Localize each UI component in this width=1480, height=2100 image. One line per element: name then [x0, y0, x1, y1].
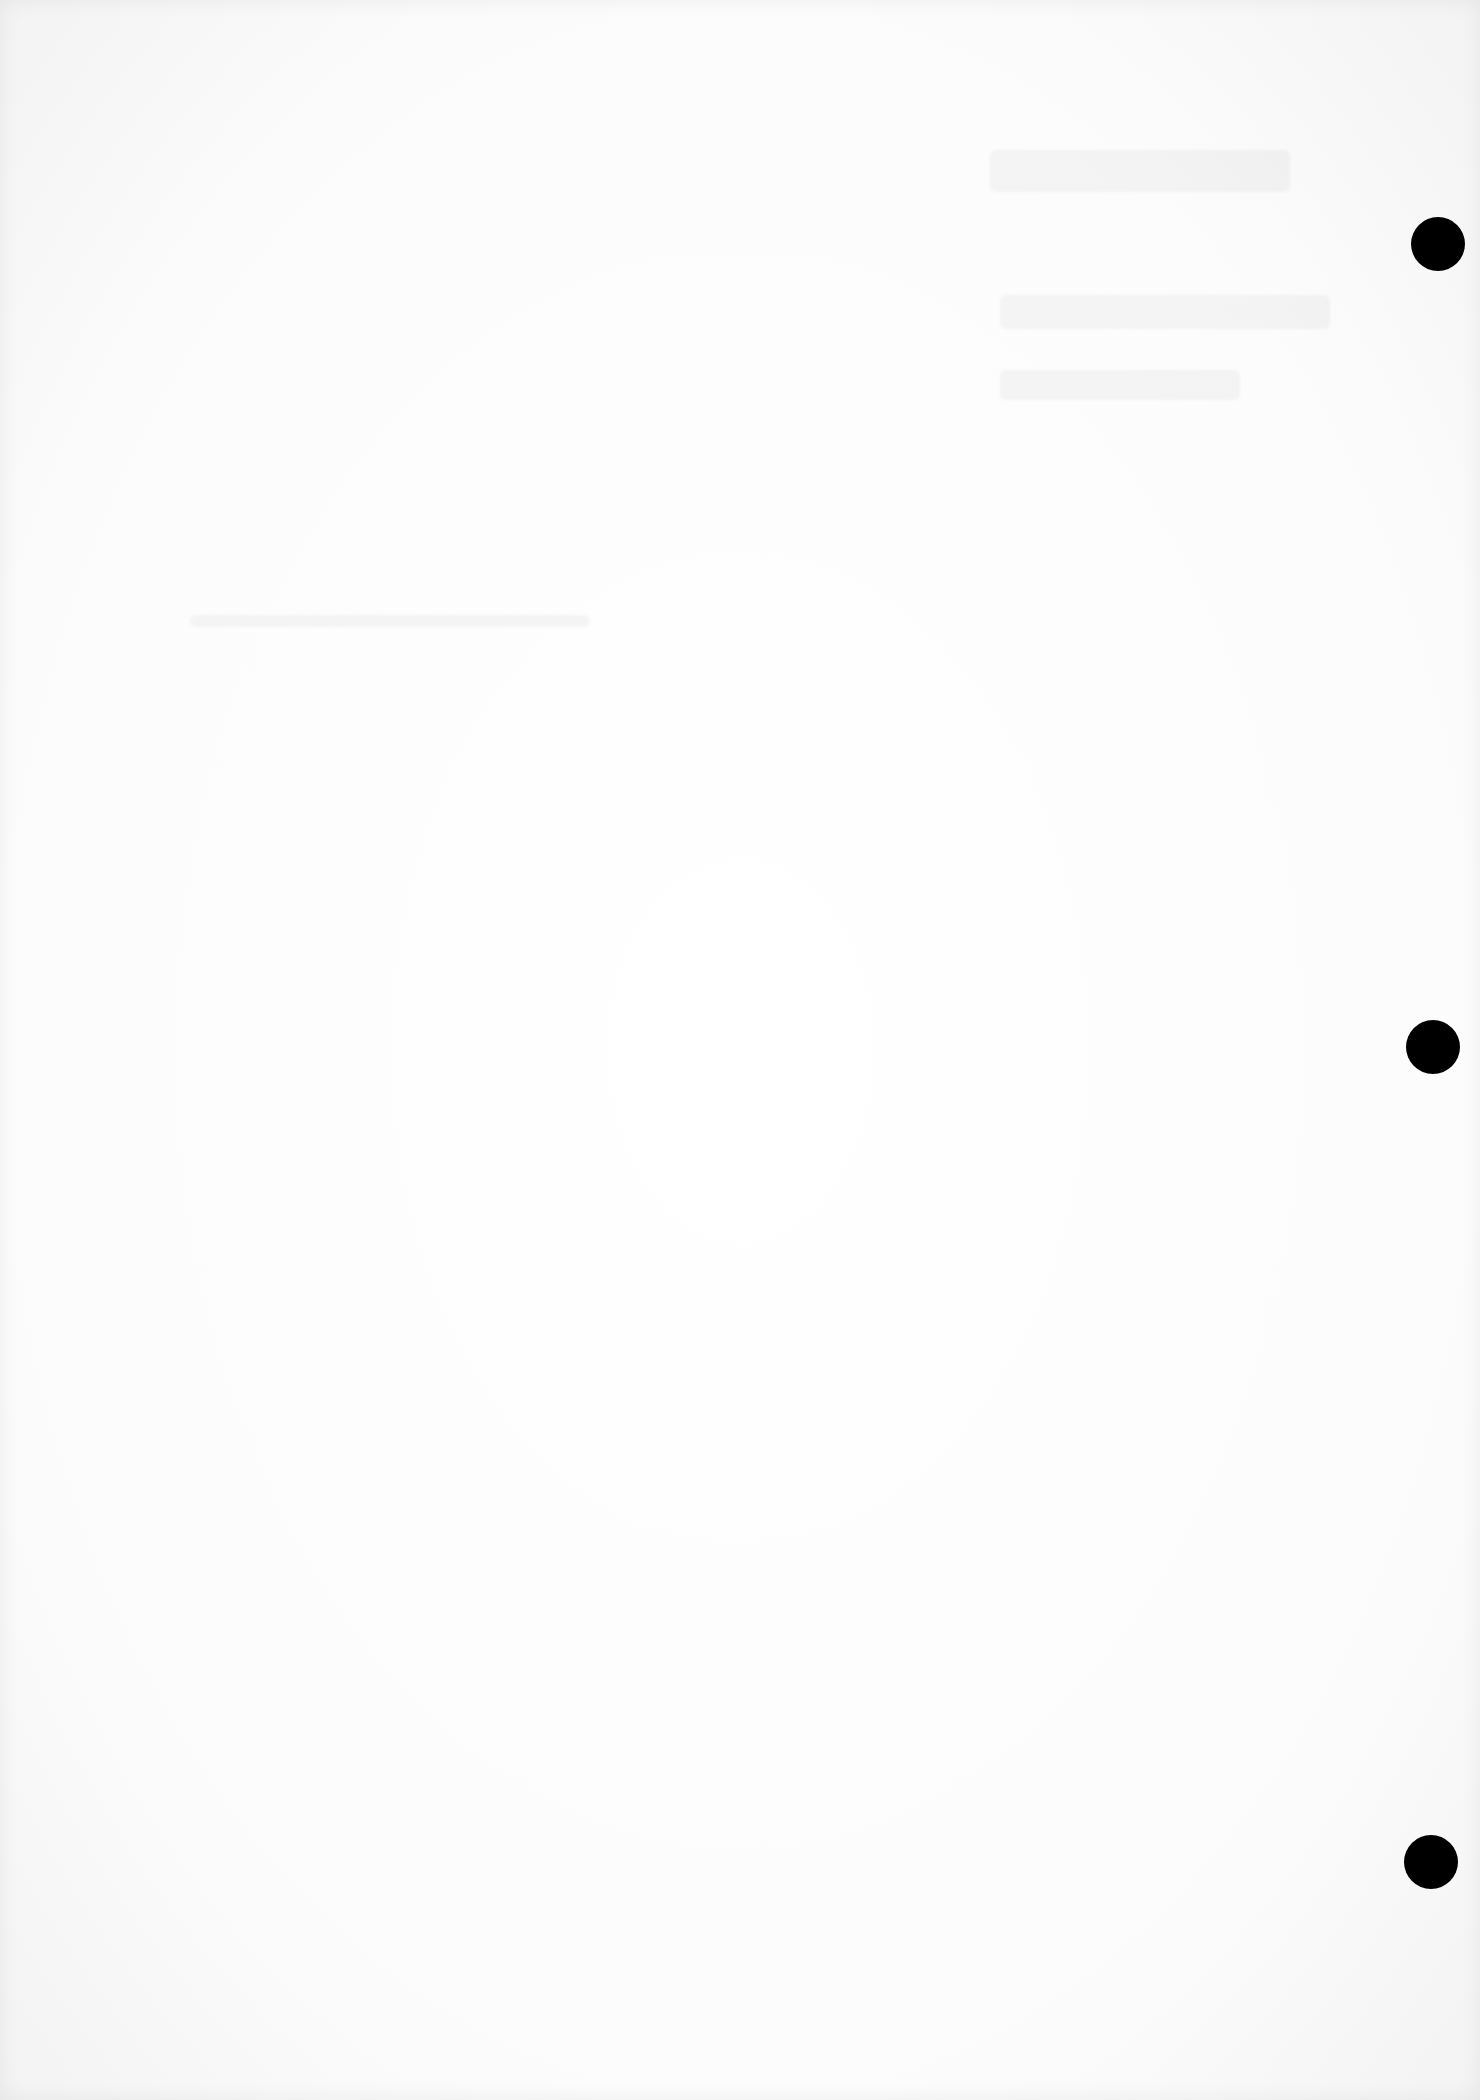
show-through-mark — [190, 615, 590, 627]
punch-hole-2 — [1406, 1020, 1460, 1074]
punch-hole-1 — [1411, 217, 1465, 271]
scanned-page — [0, 0, 1480, 2100]
show-through-mark — [990, 150, 1290, 192]
show-through-mark — [1000, 295, 1330, 329]
show-through-mark — [1000, 370, 1240, 400]
punch-hole-3 — [1404, 1835, 1458, 1889]
